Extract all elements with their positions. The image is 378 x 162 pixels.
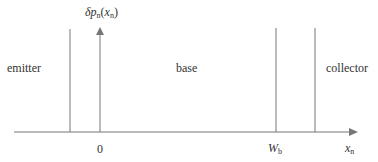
region-label-collector: collector [326, 62, 368, 74]
y-axis-arrowhead [96, 27, 104, 35]
y-axis-label: δpn(xn) [85, 6, 118, 20]
wb-subscript: b [278, 147, 282, 156]
diagram-canvas [0, 0, 378, 162]
tick-label-wb: Wb [268, 142, 282, 156]
x-axis-subscript: n [350, 147, 354, 156]
delta-p-symbol: δp [85, 5, 97, 19]
x-axis-arrowhead [349, 128, 358, 136]
x-axis-label: xn [345, 142, 354, 156]
region-label-base: base [176, 62, 197, 74]
tick-label-origin: 0 [97, 143, 103, 155]
wb-symbol: W [268, 141, 278, 155]
region-label-emitter: emitter [7, 62, 41, 74]
close-paren: ) [114, 5, 118, 19]
